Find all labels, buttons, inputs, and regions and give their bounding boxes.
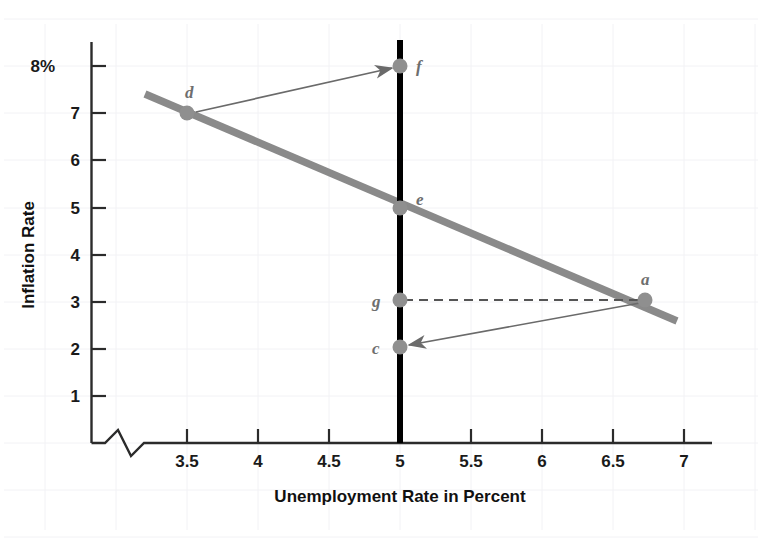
data-point-a[interactable]: [638, 293, 653, 308]
chart-canvas: f d e a g c Inflation Rate: [0, 0, 760, 551]
data-point-g[interactable]: [393, 293, 408, 308]
y-tick-label-4: 4: [71, 246, 80, 266]
y-axis-title: Inflation Rate: [19, 201, 38, 309]
x-tick-label-5: 5: [395, 452, 404, 472]
y-tick-label-8: 8%: [30, 57, 55, 77]
data-point-d[interactable]: [180, 106, 195, 121]
data-point-e[interactable]: [393, 201, 408, 216]
x-tick-label-4-5: 4.5: [317, 452, 341, 472]
x-tick-label-6: 6: [537, 452, 546, 472]
point-label-g: g: [371, 292, 381, 311]
arrow-d-to-f: [196, 68, 392, 112]
data-point-f[interactable]: [393, 59, 408, 74]
y-tick-label-1: 1: [71, 387, 80, 407]
y-tick-label-3: 3: [71, 293, 80, 313]
x-axis-title: Unemployment Rate in Percent: [274, 487, 525, 507]
point-label-e: e: [416, 190, 424, 209]
x-tick-label-3-5: 3.5: [175, 452, 199, 472]
x-tick-label-6-5: 6.5: [601, 452, 625, 472]
x-tick-label-4: 4: [253, 452, 262, 472]
point-label-a: a: [641, 270, 650, 289]
x-axis-ticks: [187, 429, 684, 443]
y-tick-label-5: 5: [71, 199, 80, 219]
x-tick-label-7: 7: [679, 452, 688, 472]
data-point-c[interactable]: [393, 340, 408, 355]
point-label-c: c: [372, 339, 380, 358]
arrow-a-to-c: [409, 303, 640, 345]
y-tick-label-7: 7: [71, 104, 80, 124]
y-tick-label-2: 2: [71, 340, 80, 360]
phillips-curve-figure: f d e a g c Inflation Rate 8% 7 6 5 4 3 …: [0, 0, 760, 551]
y-tick-label-6: 6: [71, 151, 80, 171]
x-tick-label-5-5: 5.5: [459, 452, 483, 472]
y-axis-ticks: [92, 66, 107, 396]
point-label-d: d: [185, 83, 194, 102]
